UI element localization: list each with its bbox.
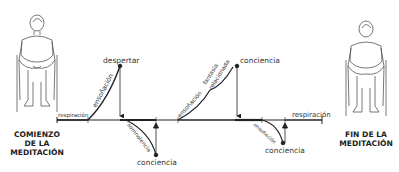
label-respiracion-start: respiración: [58, 112, 89, 119]
label-respiracion-end: respiración: [292, 111, 331, 119]
seated-person-start-icon: [17, 15, 57, 112]
label-somnolencia: somnolencia: [126, 122, 152, 153]
label-despertar: despertar: [103, 56, 140, 65]
label-conciencia-2: conciencia: [240, 56, 280, 65]
start-caption-line-2: DE LA: [25, 139, 50, 148]
start-caption-line-3: MEDITACIÓN: [10, 147, 64, 157]
start-caption: COMIENZO DE LA MEDITACIÓN: [10, 130, 64, 157]
label-ensonacion-3: ensoñación: [252, 121, 277, 145]
label-conciencia-3: conciencia: [265, 146, 305, 155]
end-caption-line-1: FIN DE LA: [345, 130, 387, 139]
start-caption-line-1: COMIENZO: [14, 130, 60, 139]
timeline: [57, 116, 322, 124]
seated-person-end-icon: [346, 21, 386, 116]
end-caption-line-2: MEDITACIÓN: [339, 138, 393, 148]
meditation-timeline-diagram: COMIENZO DE LA MEDITACIÓN FIN DE LA MEDI…: [0, 0, 399, 172]
label-conciencia-1: conciencia: [137, 158, 177, 167]
end-caption: FIN DE LA MEDITACIÓN: [339, 130, 393, 148]
label-ensonacion-1: ensoñación: [91, 72, 115, 108]
